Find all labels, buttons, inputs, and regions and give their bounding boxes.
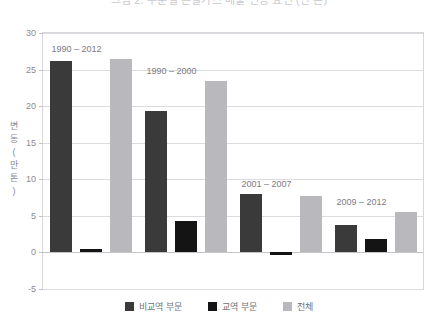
y-tick-label-20: 20 — [26, 101, 36, 111]
y-tick-label-25: 25 — [26, 65, 36, 75]
bar-group-0 — [50, 33, 132, 289]
y-tick-mark-20 — [39, 106, 43, 107]
y-tick-mark--5 — [39, 289, 43, 290]
y-tick-label-15: 15 — [26, 138, 36, 148]
y-caption-char-5: ) — [6, 185, 22, 198]
legend-item-nontrade: 비교역 부문 — [125, 300, 182, 313]
y-tick-mark-30 — [39, 33, 43, 34]
bar-group-label-3: 2009 – 2012 — [337, 197, 387, 207]
y-tick-label-0: 0 — [31, 247, 36, 257]
chart-title-clipped: 그림 2. 부문별 온실가스 배출 변동 요인 (만 톤) — [0, 0, 438, 9]
bar-2-2 — [300, 196, 322, 252]
chart-plot-area: 302520151050-51990 – 20121990 – 20002001… — [43, 33, 423, 289]
legend-label-trade: 교역 부문 — [222, 300, 257, 313]
legend-item-total: 전체 — [283, 300, 313, 313]
bar-3-0 — [335, 225, 357, 253]
bar-0-1 — [80, 249, 102, 253]
legend-label-total: 전체 — [297, 300, 313, 313]
bar-0-2 — [110, 59, 132, 252]
bar-group-label-1: 1990 – 2000 — [147, 66, 197, 76]
legend-label-nontrade: 비교역 부문 — [139, 300, 182, 313]
bar-group-label-2: 2001 – 2007 — [242, 179, 292, 189]
bar-3-1 — [365, 239, 387, 252]
bar-1-0 — [145, 111, 167, 252]
y-tick-mark-5 — [39, 216, 43, 217]
bar-3-2 — [395, 212, 417, 252]
y-caption-char-3: 만 — [6, 159, 22, 172]
y-tick-label-5: 5 — [31, 211, 36, 221]
y-tick-label-30: 30 — [26, 28, 36, 38]
y-axis-caption: 변 동 ( 만 톤 ) — [6, 120, 22, 198]
y-caption-char-0: 변 — [6, 120, 22, 133]
y-tick-mark-15 — [39, 143, 43, 144]
chart-page: 그림 2. 부문별 온실가스 배출 변동 요인 (만 톤) 변 동 ( 만 톤 … — [0, 0, 438, 334]
y-caption-char-2: ( — [6, 146, 22, 159]
y-caption-char-4: 톤 — [6, 172, 22, 185]
y-tick-label-10: 10 — [26, 174, 36, 184]
bar-group-3 — [335, 33, 417, 289]
y-tick-mark-25 — [39, 70, 43, 71]
bar-group-label-0: 1990 – 2012 — [52, 44, 102, 54]
bar-group-2 — [240, 33, 322, 289]
bar-0-0 — [50, 61, 72, 253]
bar-1-2 — [205, 81, 227, 253]
bar-2-1 — [270, 252, 292, 254]
y-tick-label--5: -5 — [28, 284, 36, 294]
chart-title-text: 그림 2. 부문별 온실가스 배출 변동 요인 (만 톤) — [0, 0, 438, 7]
legend-swatch-total-icon — [283, 302, 292, 311]
gridline--5 — [43, 289, 423, 290]
legend-swatch-trade-icon — [208, 302, 217, 311]
chart-legend: 비교역 부문 교역 부문 전체 — [0, 300, 438, 313]
legend-item-trade: 교역 부문 — [208, 300, 257, 313]
y-tick-mark-10 — [39, 179, 43, 180]
bar-1-1 — [175, 221, 197, 252]
bar-2-0 — [240, 194, 262, 253]
y-caption-char-1: 동 — [6, 133, 22, 146]
y-tick-mark-0 — [39, 252, 43, 253]
legend-swatch-nontrade-icon — [125, 302, 134, 311]
